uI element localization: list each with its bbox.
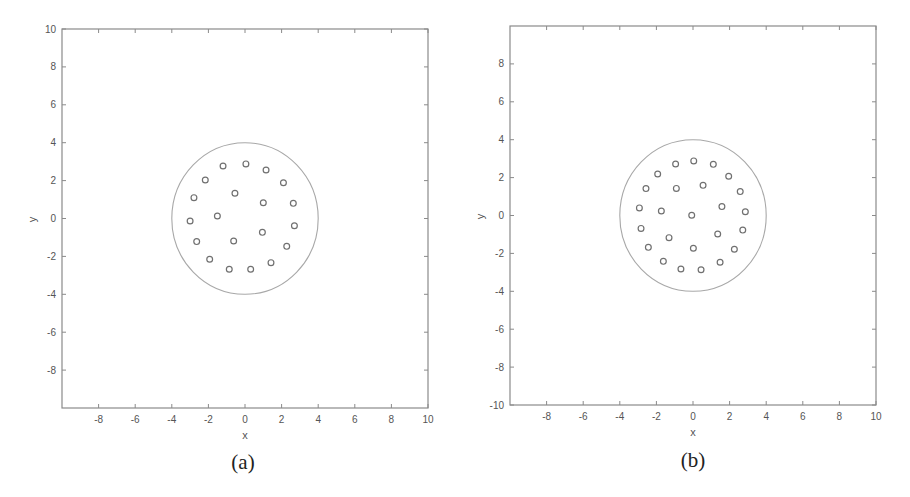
x-tick-label: -2 bbox=[204, 414, 213, 425]
y-tick-label: -2 bbox=[495, 248, 504, 259]
boundary-circle bbox=[172, 143, 318, 295]
panel-b: -8-6-4-2024681086420-2-4-6-8-10xy (b) bbox=[455, 0, 910, 497]
data-point-marker bbox=[248, 266, 254, 272]
caption-a: (a) bbox=[231, 450, 254, 475]
data-point-marker bbox=[243, 161, 249, 167]
data-point-marker bbox=[202, 177, 208, 183]
y-tick-label: 10 bbox=[45, 24, 57, 35]
data-point-marker bbox=[645, 244, 651, 250]
x-tick-label: 6 bbox=[352, 414, 358, 425]
data-point-marker bbox=[715, 231, 721, 237]
data-point-marker bbox=[710, 161, 716, 167]
x-tick-label: 10 bbox=[422, 414, 434, 425]
data-point-marker bbox=[731, 246, 737, 252]
y-axis-label: y bbox=[474, 213, 486, 219]
data-point-marker bbox=[690, 245, 696, 251]
data-point-marker bbox=[263, 167, 269, 173]
y-tick-label: -6 bbox=[47, 327, 56, 338]
x-tick-label: -8 bbox=[542, 411, 551, 422]
data-point-marker bbox=[214, 213, 220, 219]
data-point-marker bbox=[260, 200, 266, 206]
x-tick-label: -6 bbox=[579, 411, 588, 422]
data-point-marker bbox=[643, 186, 649, 192]
data-point-marker bbox=[660, 258, 666, 264]
x-tick-label: -2 bbox=[652, 411, 661, 422]
data-point-marker bbox=[700, 182, 706, 188]
data-point-marker bbox=[191, 195, 197, 201]
x-tick-label: 10 bbox=[870, 411, 882, 422]
x-axis-label: x bbox=[690, 426, 696, 438]
data-point-marker bbox=[655, 171, 661, 177]
y-tick-label: 4 bbox=[498, 134, 504, 145]
data-point-marker bbox=[666, 235, 672, 241]
y-tick-label: 6 bbox=[50, 99, 56, 110]
data-point-marker bbox=[742, 209, 748, 215]
data-point-marker bbox=[290, 200, 296, 206]
scatter-plot-a: -8-6-4-202468101086420-2-4-6-8xy bbox=[0, 0, 455, 497]
data-point-marker bbox=[231, 238, 237, 244]
data-point-marker bbox=[194, 239, 200, 245]
y-tick-label: 6 bbox=[498, 96, 504, 107]
data-point-marker bbox=[638, 225, 644, 231]
data-point-marker bbox=[673, 161, 679, 167]
data-point-marker bbox=[187, 218, 193, 224]
data-point-marker bbox=[717, 259, 723, 265]
data-point-marker bbox=[673, 186, 679, 192]
x-axis-label: x bbox=[242, 429, 248, 441]
y-tick-label: 0 bbox=[50, 213, 56, 224]
x-tick-label: -4 bbox=[167, 414, 176, 425]
data-point-marker bbox=[691, 158, 697, 164]
data-point-marker bbox=[284, 243, 290, 249]
y-tick-label: 8 bbox=[50, 61, 56, 72]
data-point-marker bbox=[259, 229, 265, 235]
y-tick-label: -10 bbox=[490, 400, 505, 411]
y-tick-label: -6 bbox=[495, 324, 504, 335]
x-tick-label: -4 bbox=[615, 411, 624, 422]
y-tick-label: -4 bbox=[47, 289, 56, 300]
data-point-marker bbox=[740, 227, 746, 233]
y-tick-label: -2 bbox=[47, 251, 56, 262]
data-point-marker bbox=[737, 189, 743, 195]
x-tick-label: 2 bbox=[727, 411, 733, 422]
data-point-marker bbox=[281, 180, 287, 186]
y-tick-label: 2 bbox=[50, 175, 56, 186]
x-tick-label: 8 bbox=[389, 414, 395, 425]
x-tick-label: -6 bbox=[131, 414, 140, 425]
data-point-marker bbox=[232, 190, 238, 196]
scatter-plot-b: -8-6-4-2024681086420-2-4-6-8-10xy bbox=[455, 0, 910, 497]
data-point-marker bbox=[689, 212, 695, 218]
caption-b: (b) bbox=[681, 448, 706, 473]
boundary-circle bbox=[620, 140, 766, 292]
data-point-marker bbox=[226, 266, 232, 272]
data-point-marker bbox=[292, 223, 298, 229]
x-tick-label: 2 bbox=[279, 414, 285, 425]
y-tick-label: 8 bbox=[498, 58, 504, 69]
y-tick-label: -8 bbox=[495, 362, 504, 373]
y-tick-label: -4 bbox=[495, 286, 504, 297]
x-tick-label: 0 bbox=[690, 411, 696, 422]
y-tick-label: 4 bbox=[50, 137, 56, 148]
y-axis-label: y bbox=[26, 216, 38, 222]
y-tick-label: -8 bbox=[47, 365, 56, 376]
x-tick-label: 4 bbox=[763, 411, 769, 422]
data-point-marker bbox=[698, 267, 704, 273]
data-point-marker bbox=[636, 205, 642, 211]
data-point-marker bbox=[220, 163, 226, 169]
x-tick-label: 6 bbox=[800, 411, 806, 422]
x-tick-label: -8 bbox=[94, 414, 103, 425]
x-tick-label: 0 bbox=[242, 414, 248, 425]
data-point-marker bbox=[268, 260, 274, 266]
panel-a: -8-6-4-202468101086420-2-4-6-8xy (a) bbox=[0, 0, 455, 497]
data-point-marker bbox=[719, 204, 725, 210]
y-tick-label: 2 bbox=[498, 172, 504, 183]
axes-frame bbox=[510, 26, 876, 405]
data-point-marker bbox=[658, 208, 664, 214]
data-point-marker bbox=[207, 256, 213, 262]
x-tick-label: 4 bbox=[315, 414, 321, 425]
data-point-marker bbox=[678, 266, 684, 272]
axes-frame bbox=[62, 29, 428, 408]
data-point-marker bbox=[726, 173, 732, 179]
y-tick-label: 0 bbox=[498, 210, 504, 221]
x-tick-label: 8 bbox=[837, 411, 843, 422]
